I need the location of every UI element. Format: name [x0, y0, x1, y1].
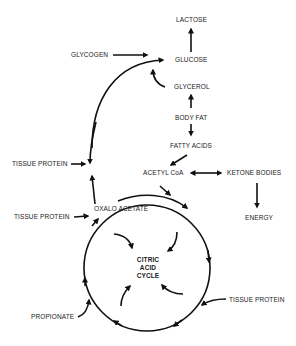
label-propionate: PROPIONATE: [31, 313, 74, 321]
arrow-tissueprotein3: [202, 299, 226, 305]
label-glucose: GLUCOSE: [175, 56, 208, 64]
label-energy: ENERGY: [245, 214, 273, 222]
arrow-propionate: [78, 300, 89, 317]
label-body-fat: BODY FAT: [175, 114, 207, 122]
arrow-tissueprotein2: [74, 216, 88, 217]
label-tissue-protein-2: TISSUE PROTEIN: [14, 213, 70, 221]
cycle-arrow-bottom-right: [174, 320, 182, 326]
label-fatty-acids: FATTY ACIDS: [170, 142, 212, 150]
citric-line-1: CITRIC: [133, 256, 163, 264]
label-tissue-protein-1: TISSUE PROTEIN: [12, 160, 68, 168]
label-citric-acid-cycle: CITRIC ACID CYCLE: [133, 256, 163, 280]
arrow-acetylcoa-cycle: [160, 186, 170, 195]
inner-arrow-bottom-right: [162, 285, 183, 294]
citric-line-2: ACID: [133, 264, 163, 272]
label-oxalo-acetate: OXALO ACETATE: [94, 205, 148, 213]
arrow-arc-to-glucose: [92, 60, 163, 148]
cycle-arrow-bottom-left: [114, 321, 122, 326]
inner-arrow-top-right: [168, 232, 177, 251]
cycle-arrow-top-left: [92, 219, 98, 226]
arrow-fattyacids-acetylcoa: [171, 155, 187, 165]
inner-arrow-top-left: [114, 234, 132, 248]
label-ketone-bodies: KETONE BODIES: [227, 169, 281, 177]
arrow-oxalo-up: [92, 176, 95, 204]
label-glycogen: GLYCOGEN: [71, 51, 108, 59]
cycle-arrow-right: [208, 250, 209, 262]
citric-line-3: CYCLE: [133, 272, 163, 280]
label-glycerol: GLYCEROL: [174, 83, 210, 91]
label-acetyl-coa: ACETYL CoA: [143, 169, 184, 177]
inner-arrow-bottom-left: [121, 286, 130, 306]
label-lactose: LACTOSE: [176, 16, 207, 24]
arrow-glycerol-glucose: [153, 70, 165, 87]
label-tissue-protein-3: TISSUE PROTEIN: [229, 296, 285, 304]
